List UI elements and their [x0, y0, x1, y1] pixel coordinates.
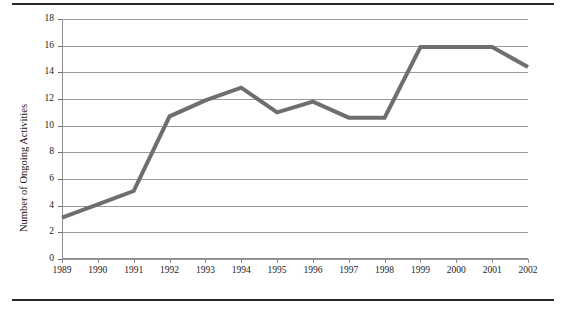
x-tick-label-2002: 2002 — [519, 265, 538, 275]
y-tick-label-18: 18 — [30, 14, 54, 24]
y-tick-label-16: 16 — [30, 41, 54, 51]
x-tick-mark-1992 — [170, 259, 171, 263]
bottom-divider-rule — [12, 299, 554, 301]
x-tick-mark-1994 — [241, 259, 242, 263]
x-tick-mark-2002 — [528, 259, 529, 263]
x-tick-label-1995: 1995 — [268, 265, 287, 275]
x-tick-label-1992: 1992 — [160, 265, 179, 275]
y-tick-label-10: 10 — [30, 121, 54, 131]
x-tick-mark-2001 — [492, 259, 493, 263]
x-tick-label-1989: 1989 — [53, 265, 72, 275]
x-tick-mark-1989 — [62, 259, 63, 263]
x-tick-label-1991: 1991 — [124, 265, 143, 275]
chart-figure: Number of Ongoing Activities 02468101214… — [0, 0, 566, 313]
y-tick-label-4: 4 — [30, 201, 54, 211]
y-tick-label-0: 0 — [30, 254, 54, 264]
y-tick-label-2: 2 — [30, 227, 54, 237]
x-tick-mark-1991 — [134, 259, 135, 263]
x-tick-mark-1999 — [420, 259, 421, 263]
x-tick-label-1997: 1997 — [339, 265, 358, 275]
x-tick-label-1996: 1996 — [303, 265, 322, 275]
x-tick-mark-1990 — [98, 259, 99, 263]
x-tick-mark-1996 — [313, 259, 314, 263]
y-tick-label-14: 14 — [30, 67, 54, 77]
series-line-ongoing-activities — [62, 19, 528, 259]
y-tick-label-6: 6 — [30, 174, 54, 184]
y-axis-title: Number of Ongoing Activities — [18, 104, 29, 232]
x-tick-label-2000: 2000 — [447, 265, 466, 275]
x-tick-mark-1993 — [205, 259, 206, 263]
x-tick-label-1998: 1998 — [375, 265, 394, 275]
y-tick-label-12: 12 — [30, 94, 54, 104]
x-tick-mark-2000 — [456, 259, 457, 263]
x-tick-label-1990: 1990 — [88, 265, 107, 275]
gridline-y-0 — [62, 259, 528, 260]
x-tick-label-1993: 1993 — [196, 265, 215, 275]
x-tick-label-1999: 1999 — [411, 265, 430, 275]
y-tick-label-8: 8 — [30, 147, 54, 157]
x-tick-label-2001: 2001 — [483, 265, 502, 275]
x-tick-mark-1998 — [385, 259, 386, 263]
x-tick-mark-1997 — [349, 259, 350, 263]
x-tick-mark-1995 — [277, 259, 278, 263]
series-path-0 — [62, 47, 528, 218]
x-tick-label-1994: 1994 — [232, 265, 251, 275]
top-divider-rule — [12, 3, 554, 5]
plot-area: 024681012141618 198919901991199219931994… — [62, 19, 528, 259]
